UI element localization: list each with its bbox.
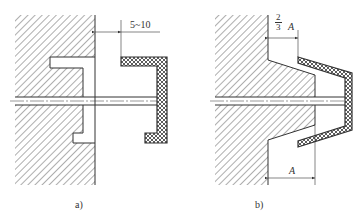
caption-a: a) — [75, 200, 83, 210]
fraction-variable: A — [288, 22, 294, 32]
fraction-denominator: 3 — [275, 23, 282, 32]
caption-b: b) — [255, 200, 263, 210]
diagram-a — [10, 15, 167, 185]
cap-b — [298, 57, 352, 147]
fraction-dimension-b: 2 3 — [275, 13, 282, 32]
dimension-label-a: 5~10 — [130, 20, 150, 30]
technical-drawing — [0, 0, 363, 220]
cap-a — [121, 57, 167, 143]
diagram-b — [210, 15, 352, 185]
bottom-dimension-label-b: A — [289, 166, 295, 176]
